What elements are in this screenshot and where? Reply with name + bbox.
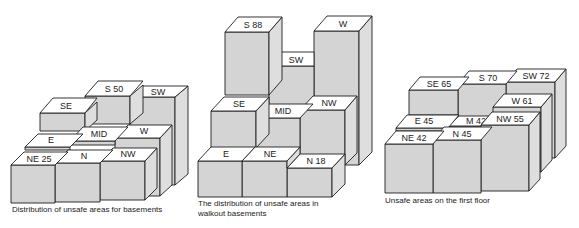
caption-walkout-line2: walkout basements bbox=[198, 209, 266, 219]
block-label: SW bbox=[151, 87, 166, 97]
block-label: SW 72 bbox=[522, 71, 549, 81]
block-label: SE 65 bbox=[427, 79, 452, 89]
block-label: S 50 bbox=[105, 84, 124, 94]
block-label: NE bbox=[264, 149, 277, 159]
block-label: W bbox=[140, 126, 149, 136]
block-label: N bbox=[81, 151, 88, 161]
block-label: MID bbox=[275, 106, 292, 116]
block-se: SE bbox=[211, 97, 269, 148]
block-label: SE bbox=[60, 101, 72, 111]
diagram-walkout-basements: W SW S 88 NW MID SE bbox=[198, 16, 372, 197]
block-label: MID bbox=[91, 129, 108, 139]
block-label: E bbox=[223, 149, 229, 159]
caption-first-floor: Unsafe areas on the first floor bbox=[385, 196, 490, 206]
block-label: NE 42 bbox=[401, 133, 426, 143]
caption-basements: Distribution of unsafe areas for basemen… bbox=[12, 205, 162, 215]
block-label: S 70 bbox=[479, 73, 498, 83]
block-label: SE bbox=[233, 99, 245, 109]
caption-walkout-line1: The distribution of unsafe areas in bbox=[198, 199, 319, 209]
block-nw: NW 55 bbox=[481, 112, 540, 191]
block-label: SW bbox=[289, 55, 304, 65]
block-label: E 45 bbox=[415, 116, 434, 126]
block-label: NW 55 bbox=[496, 114, 524, 124]
block-label: W 61 bbox=[511, 96, 532, 106]
block-label: NW bbox=[322, 98, 337, 108]
block-label: N 45 bbox=[452, 129, 471, 139]
block-s: S 88 bbox=[225, 17, 282, 95]
block-label: E bbox=[48, 135, 54, 145]
block-label: W bbox=[339, 19, 348, 29]
diagram-basements: SW S 50 SE W MID E bbox=[11, 81, 188, 203]
block-label: N 18 bbox=[306, 156, 325, 166]
block-n: N 18 bbox=[287, 154, 345, 197]
diagram-first-floor: SW 72 S 70 SE 65 W 61 M 42 E 45 bbox=[385, 69, 566, 193]
block-nw: NW bbox=[100, 148, 157, 200]
block-label: NE 25 bbox=[26, 154, 51, 164]
block-se: SE bbox=[40, 98, 97, 131]
block-e: E bbox=[25, 134, 83, 150]
block-label: NW bbox=[121, 149, 136, 159]
block-label: S 88 bbox=[244, 20, 263, 30]
